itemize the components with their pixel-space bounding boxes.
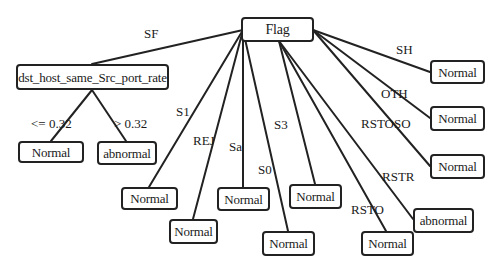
node-label: Normal (269, 237, 308, 250)
node-label: Normal (32, 146, 71, 159)
leaf-node-s1-normal: Normal (121, 187, 178, 210)
edge-label-s0: S0 (258, 163, 272, 176)
leaf-node-sa-normal: Normal (217, 187, 270, 211)
edge-label-gt: > 0.32 (114, 117, 147, 130)
leaf-node-sh-normal: Normal (430, 60, 485, 84)
root-node-flag: Flag (241, 17, 314, 42)
leaf-node-s3-normal: Normal (289, 184, 342, 209)
leaf-node-rsto-normal: Normal (361, 231, 414, 256)
node-label: dst_host_same_Src_port_rate (18, 71, 166, 84)
edge-label-le: <= 0.32 (31, 117, 72, 130)
edge-label-rstr: RSTR (382, 170, 415, 183)
node-label: abnormal (103, 147, 151, 160)
edge-label-sh: SH (396, 43, 413, 56)
node-label: Normal (174, 225, 213, 238)
node-label: Normal (224, 193, 263, 206)
decision-tree-diagram: Flag dst_host_same_Src_port_rate Normal … (0, 0, 500, 273)
node-label: Flag (265, 23, 289, 37)
edge-s3-line (279, 41, 315, 184)
leaf-node-le-normal: Normal (18, 141, 84, 163)
node-label: Normal (438, 160, 477, 173)
node-dst-host-same-src-port-rate: dst_host_same_Src_port_rate (16, 64, 169, 90)
leaf-node-s0-normal: Normal (262, 231, 315, 256)
edge-label-sf: SF (144, 27, 158, 40)
edge-label-sa: Sa (229, 140, 242, 153)
leaf-node-rej-normal: Normal (169, 219, 218, 244)
node-label: abnormal (420, 214, 468, 227)
leaf-node-rstr-abnormal: abnormal (413, 208, 474, 233)
node-label: Normal (368, 237, 407, 250)
leaf-node-gt-abnormal: abnormal (97, 141, 157, 165)
node-label: Normal (438, 112, 477, 125)
node-label: Normal (130, 192, 169, 205)
edge-sf-line (92, 30, 243, 64)
edge-label-oth: OTH (381, 87, 408, 100)
node-label: Normal (296, 190, 335, 203)
leaf-node-oth-normal: Normal (430, 106, 485, 131)
edge-label-rstoso: RSTOSO (361, 117, 411, 130)
edge-label-s1: S1 (176, 105, 190, 118)
node-label: Normal (438, 66, 477, 79)
edge-label-rej: REJ (193, 134, 215, 147)
leaf-node-rstoso-normal: Normal (430, 154, 485, 179)
edge-label-rsto: RSTO (351, 203, 384, 216)
edge-s1-line (149, 30, 243, 187)
edge-label-s3: S3 (274, 118, 288, 131)
